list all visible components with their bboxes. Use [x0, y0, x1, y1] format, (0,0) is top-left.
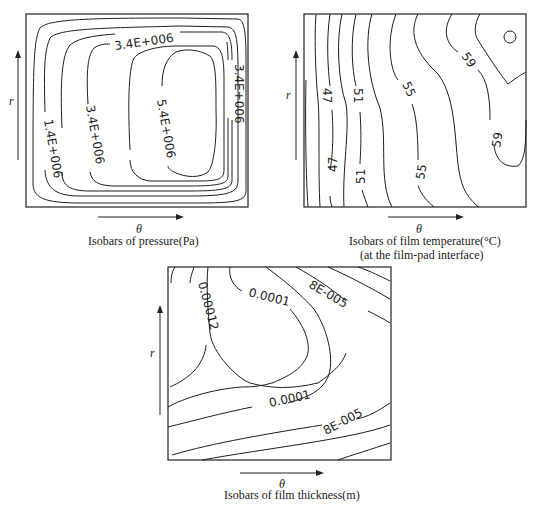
contour-label: 55 — [413, 163, 429, 180]
contour-label: 55 — [399, 79, 418, 99]
contour-label: 51 — [354, 169, 368, 184]
contour-label: 47 — [320, 88, 334, 103]
theta-axis-arrowhead-icon — [316, 470, 324, 476]
contour-label: 5.4E+006 — [154, 98, 178, 159]
contour-label: 0.0001 — [247, 285, 291, 309]
thickness-caption: Isobars of film thickness(m) — [224, 488, 360, 503]
r-axis-arrowhead-icon — [15, 50, 21, 58]
theta-axis-arrowhead-icon — [456, 214, 464, 220]
contour-label: 59 — [459, 50, 479, 71]
temperature-caption: Isobars of film temperature(°C) — [349, 234, 501, 249]
contour-label: 3.4E+006 — [232, 64, 246, 124]
temperature-contour-plot: r 47 51 55 59 47 51 55 59 — [278, 0, 538, 215]
r-axis-label: r — [150, 346, 155, 360]
contour-label: 0.0001 — [268, 388, 312, 410]
contour-label: 8E-005 — [321, 405, 365, 437]
pressure-caption: Isobars of pressure(Pa) — [88, 234, 199, 249]
theta-axis-arrowhead-icon — [176, 214, 184, 220]
r-axis-arrowhead-icon — [293, 50, 299, 58]
thickness-contour-plot: r 0.00012 0.0001 8E-005 0.0001 8E-005 — [142, 253, 402, 468]
contour-label: 8E-005 — [307, 277, 351, 310]
contour-label: 47 — [326, 157, 340, 172]
temperature-maximum-marker — [504, 31, 516, 43]
r-axis-label: r — [9, 94, 14, 108]
contour-label: 51 — [351, 88, 365, 103]
pressure-contour-plot: r 3.4E+006 3.4E+006 1.4E+006 5.4E+006 3.… — [0, 0, 260, 215]
r-axis-label: r — [286, 88, 291, 102]
contour-label: 0.00012 — [195, 280, 221, 332]
r-axis-arrowhead-icon — [157, 305, 163, 313]
contour-label: 59 — [489, 131, 505, 148]
contour-label: 3.4E+006 — [113, 31, 174, 53]
contour-label: 3.4E+006 — [83, 104, 107, 165]
